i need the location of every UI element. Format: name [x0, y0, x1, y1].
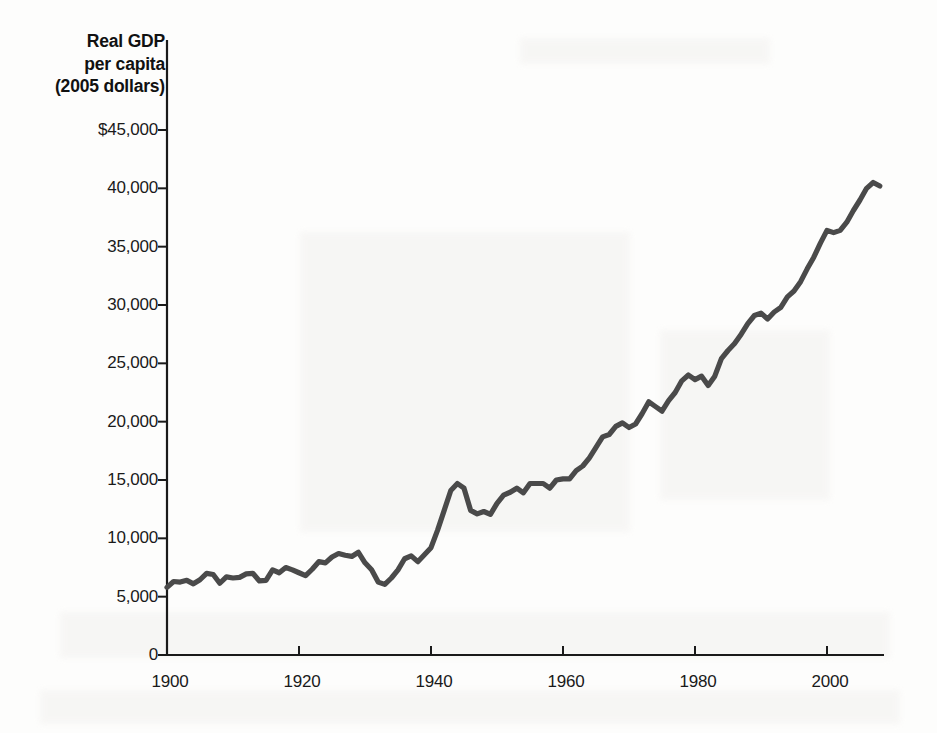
- x-axis-ticks: [167, 646, 827, 655]
- chart-figure: Real GDP per capita (2005 dollars) $45,0…: [0, 0, 937, 733]
- data-series-line: [167, 183, 880, 588]
- plot-area: [0, 0, 937, 733]
- y-axis-ticks: [158, 130, 167, 655]
